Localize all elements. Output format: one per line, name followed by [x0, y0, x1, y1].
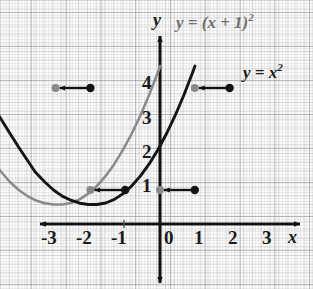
curve-label-base-text: y = x	[243, 63, 277, 82]
x-tick-label-neg3: -3	[41, 227, 57, 249]
curve-label-shifted-exponent: 2	[248, 11, 254, 23]
gray-point-neg3-4	[52, 84, 60, 92]
y-tick-label-4: 4	[142, 72, 152, 94]
black-point-2-4	[225, 84, 233, 92]
x-tick-label-neg1: -1	[111, 227, 127, 249]
curve-label-base-exponent: 2	[277, 61, 283, 73]
y-tick-label-3: 3	[142, 107, 152, 129]
x-tick-label-2: 2	[228, 227, 238, 249]
y-axis-name: y	[153, 10, 161, 31]
gray-point-0-1	[156, 186, 164, 194]
y-tick-label-2: 2	[142, 141, 152, 163]
black-point-1-1	[191, 186, 199, 194]
curve-label-shifted-parabola: y = (x + 1)2	[176, 11, 254, 33]
curve-base-parabola	[0, 52, 195, 205]
x-tick-label-neg2: -2	[76, 227, 92, 249]
curve-label-base-parabola: y = x2	[243, 61, 283, 83]
black-point-neg1-1	[121, 186, 129, 194]
x-tick-label-3: 3	[262, 227, 272, 249]
x-tick-label-1: 1	[194, 227, 204, 249]
x-axis-name: x	[288, 227, 297, 248]
gray-point-neg2-1	[86, 186, 94, 194]
curve-label-shifted-text: y = (x + 1)	[176, 13, 248, 32]
y-tick-label-1: 1	[142, 175, 152, 197]
x-tick-label-0: 0	[164, 227, 174, 249]
graph-figure: -3 -2 -1 0 1 2 3 1 2 3 4 y x y = (x + 1)…	[0, 0, 313, 289]
black-point-neg2-4	[86, 84, 94, 92]
gray-point-1-4	[191, 84, 199, 92]
